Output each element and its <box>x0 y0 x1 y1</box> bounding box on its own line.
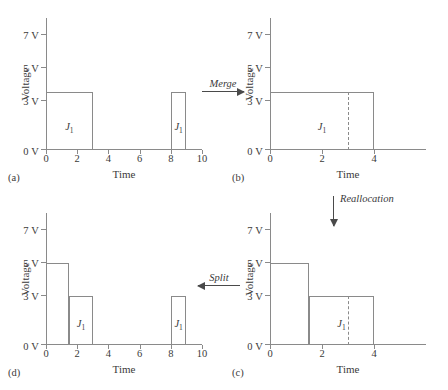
x-tick-label-d-3: 6 <box>137 348 142 359</box>
merge-transition-arrow: Merge <box>196 78 250 92</box>
y-tick-label-a-3: 7 V <box>23 30 39 41</box>
y-tick-d-3 <box>41 229 46 230</box>
panel-d: Voltage Time 0 V3 V5 V7 V0246810J1J1 (d) <box>0 195 224 390</box>
reallocation-label: Reallocation <box>340 193 394 204</box>
y-tick-b-3 <box>265 34 270 35</box>
chart-c: Voltage Time 0 V3 V5 V7 V024J1 <box>270 213 426 345</box>
x-tick-label-b-0: 0 <box>267 153 272 164</box>
y-tick-a-2 <box>41 67 46 68</box>
x-tick-label-b-1: 2 <box>319 153 324 164</box>
x-axis-title-b: Time <box>270 168 426 180</box>
bar-a-0: J1 <box>46 92 93 150</box>
y-tick-label-d-1: 3 V <box>23 291 39 302</box>
x-tick-label-d-1: 2 <box>75 348 80 359</box>
x-axis-title-d: Time <box>46 363 202 375</box>
x-axis-title-c: Time <box>270 363 426 375</box>
x-tick-label-a-2: 4 <box>106 153 111 164</box>
bar-label-c-1: J1 <box>337 318 345 332</box>
panel-b: Voltage Time 0 V3 V5 V7 V024J1 (b) <box>224 0 448 195</box>
y-tick-label-b-2: 5 V <box>247 63 263 74</box>
x-tick-label-d-2: 4 <box>106 348 111 359</box>
split-transition-arrow: Split <box>192 272 246 286</box>
chart-d: Voltage Time 0 V3 V5 V7 V0246810J1J1 <box>46 213 202 345</box>
chart-a: Voltage Time 0 V3 V5 V7 V0246810J1J1 <box>46 18 202 150</box>
caption-b: (b) <box>232 172 244 183</box>
bar-c-0 <box>270 263 309 346</box>
bar-label-a-0: J1 <box>65 121 73 135</box>
y-tick-label-a-0: 0 V <box>23 145 39 156</box>
bar-d-1: J1 <box>69 296 92 346</box>
caption-c: (c) <box>232 367 244 378</box>
y-tick-c-3 <box>265 229 270 230</box>
y-tick-label-a-2: 5 V <box>23 63 39 74</box>
y-tick-label-d-0: 0 V <box>23 340 39 351</box>
bar-label-d-1: J1 <box>77 318 85 332</box>
y-tick-label-c-2: 5 V <box>247 258 263 269</box>
x-tick-label-a-5: 10 <box>197 153 208 164</box>
x-tick-label-d-0: 0 <box>43 348 48 359</box>
caption-a: (a) <box>8 172 20 183</box>
bar-d-0 <box>46 263 69 346</box>
bar-b-0: J1 <box>270 92 374 150</box>
y-tick-label-b-1: 3 V <box>247 96 263 107</box>
bar-c-1: J1 <box>309 296 374 346</box>
x-tick-label-a-3: 6 <box>137 153 142 164</box>
arrow-left-icon <box>198 285 240 286</box>
x-tick-label-a-4: 8 <box>168 153 173 164</box>
panel-a: Voltage Time 0 V3 V5 V7 V0246810J1J1 (a) <box>0 0 224 195</box>
bar-label-b-0: J1 <box>318 121 326 135</box>
reallocation-transition-arrow: Reallocation <box>333 196 394 226</box>
x-axis-title-a: Time <box>46 168 202 180</box>
y-tick-b-2 <box>265 67 270 68</box>
bar-a-1: J1 <box>171 92 187 150</box>
bar-label-d-2: J1 <box>174 318 182 332</box>
x-tick-label-a-0: 0 <box>43 153 48 164</box>
x-tick-label-d-4: 8 <box>168 348 173 359</box>
chart-b: Voltage Time 0 V3 V5 V7 V024J1 <box>270 18 426 150</box>
y-tick-label-a-1: 3 V <box>23 96 39 107</box>
bar-d-2: J1 <box>171 296 187 346</box>
y-tick-a-3 <box>41 34 46 35</box>
arrow-down-icon <box>333 196 334 226</box>
dashed-split-line-c-0 <box>348 296 349 346</box>
x-tick-label-d-5: 10 <box>197 348 208 359</box>
dashed-split-line-b-0 <box>348 92 349 150</box>
x-tick-label-c-1: 2 <box>319 348 324 359</box>
y-tick-label-b-3: 7 V <box>247 30 263 41</box>
y-tick-label-d-2: 5 V <box>23 258 39 269</box>
arrow-right-icon <box>202 91 244 92</box>
y-tick-label-d-3: 7 V <box>23 225 39 236</box>
x-tick-label-b-2: 4 <box>371 153 376 164</box>
y-tick-label-c-3: 7 V <box>247 225 263 236</box>
bar-label-a-1: J1 <box>174 121 182 135</box>
y-tick-label-c-0: 0 V <box>247 340 263 351</box>
y-tick-label-c-1: 3 V <box>247 291 263 302</box>
x-tick-label-c-2: 4 <box>371 348 376 359</box>
x-tick-label-c-0: 0 <box>267 348 272 359</box>
x-tick-label-a-1: 2 <box>75 153 80 164</box>
y-tick-label-b-0: 0 V <box>247 145 263 156</box>
caption-d: (d) <box>8 367 20 378</box>
